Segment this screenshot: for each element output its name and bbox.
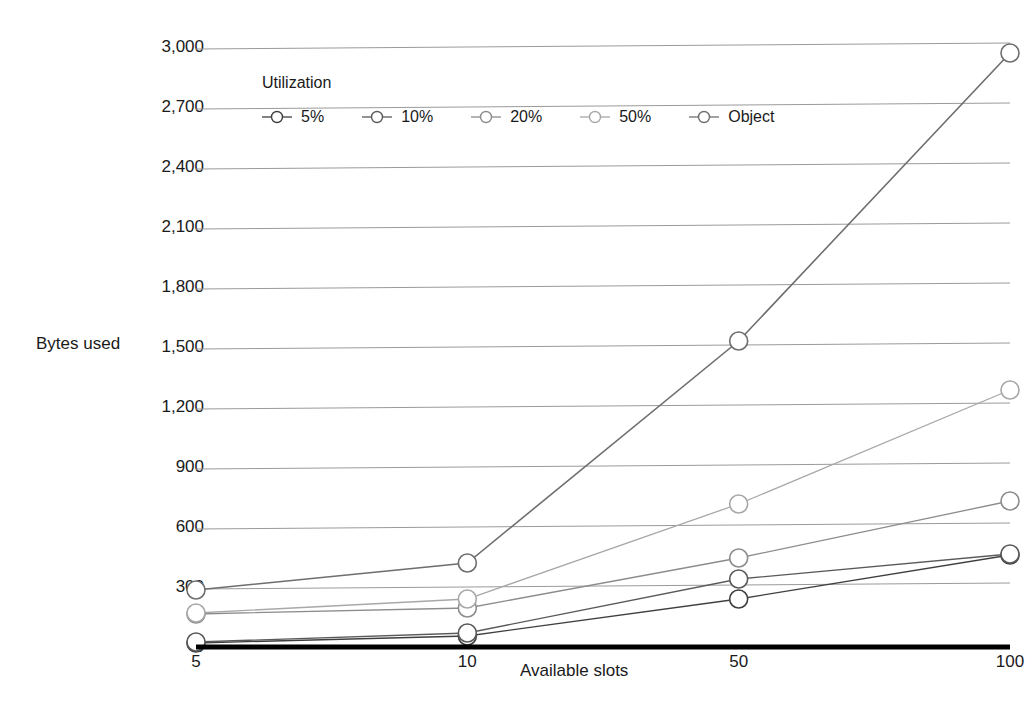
gridline [196,403,1010,409]
gridline [196,343,1010,349]
legend-marker-icon [262,109,292,125]
x-tick-label: 50 [729,652,748,672]
data-point-marker [1001,492,1019,510]
legend-label: 10% [401,108,433,126]
legend-item-20pct[interactable]: 20% [471,108,542,126]
gridline [196,163,1010,169]
series-line-10pct [196,554,1010,642]
series-line-5pct [196,555,1010,643]
data-point-marker [187,604,205,622]
legend-marker-icon [580,109,610,125]
gridline [196,463,1010,469]
legend-item-50pct[interactable]: 50% [580,108,651,126]
x-tick-label: 10 [458,652,477,672]
data-point-marker [1001,545,1019,563]
data-point-marker [730,590,748,608]
legend-title: Utilization [262,74,902,92]
gridline [196,283,1010,289]
data-point-marker [730,549,748,567]
legend-label: 50% [619,108,651,126]
legend-marker-icon [471,109,501,125]
data-point-marker [1001,381,1019,399]
legend-item-5pct[interactable]: 5% [262,108,324,126]
x-axis-title: Available slots [520,661,628,681]
gridline [196,223,1010,229]
data-point-marker [730,495,748,513]
gridline [196,583,1010,589]
legend-label: 20% [510,108,542,126]
legend: Utilization 5%10%20%50%Object [262,74,902,126]
series-line-object [196,53,1010,590]
x-tick-label: 5 [191,652,200,672]
legend-marker-icon [689,109,719,125]
data-point-marker [458,590,476,608]
data-point-marker [730,570,748,588]
legend-item-10pct[interactable]: 10% [362,108,433,126]
y-axis-title: Bytes used [36,334,120,354]
gridline [196,43,1010,49]
chart-container: 03006009001,2001,5001,8002,1002,4002,700… [0,0,1033,711]
x-tick-label: 100 [996,652,1024,672]
series-line-50pct [196,390,1010,613]
data-point-marker [1001,44,1019,62]
legend-item-object[interactable]: Object [689,108,774,126]
data-point-marker [458,624,476,642]
legend-label: 5% [301,108,324,126]
data-point-marker [187,581,205,599]
data-point-marker [458,554,476,572]
legend-marker-icon [362,109,392,125]
legend-items: 5%10%20%50%Object [262,108,902,126]
data-point-marker [730,332,748,350]
series-line-20pct [196,501,1010,614]
legend-label: Object [728,108,774,126]
